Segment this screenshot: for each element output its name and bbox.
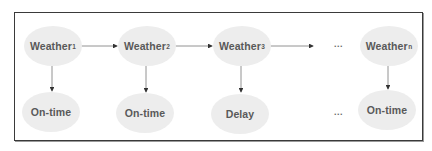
state-subscript: 3: [261, 43, 265, 50]
state-node-weather-1: Weather1: [24, 26, 82, 66]
state-subscript: 2: [166, 43, 170, 50]
observation-node-2: On-time: [116, 93, 174, 133]
state-node-weather-2: Weather2: [118, 26, 176, 66]
state-node-weather-3: Weather3: [213, 26, 271, 66]
state-label: Weather: [366, 40, 408, 52]
observation-label: On-time: [367, 104, 407, 116]
state-label: Weather: [219, 40, 261, 52]
state-label: Weather: [124, 40, 166, 52]
state-subscript: n: [408, 43, 412, 50]
ellipsis-top: ...: [334, 39, 343, 49]
observation-node-3: Delay: [211, 94, 269, 134]
state-label: Weather: [30, 40, 72, 52]
ellipsis-bottom: ...: [334, 107, 343, 117]
state-subscript: 1: [72, 43, 76, 50]
state-node-weather-n: Weathern: [360, 26, 418, 66]
observation-node-1: On-time: [22, 92, 80, 132]
observation-label: On-time: [125, 107, 165, 119]
observation-label: Delay: [226, 108, 255, 120]
observation-node-n: On-time: [358, 90, 416, 130]
observation-label: On-time: [31, 106, 71, 118]
